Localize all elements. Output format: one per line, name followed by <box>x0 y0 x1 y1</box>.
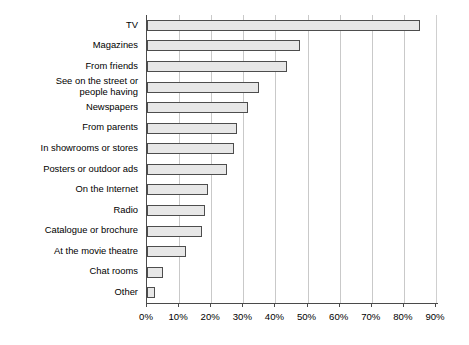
x-tick-label: 30% <box>225 311 259 322</box>
x-tick-label: 0% <box>129 311 163 322</box>
x-tick <box>178 303 179 307</box>
category-label: Radio <box>0 205 138 216</box>
gridline-80pct <box>404 15 405 303</box>
category-label: In showrooms or stores <box>0 143 138 154</box>
bar <box>147 61 287 72</box>
x-tick <box>274 303 275 307</box>
bar <box>147 267 163 278</box>
bar <box>147 226 202 237</box>
x-tick <box>435 303 436 307</box>
category-label: See on the street or people having <box>0 76 138 97</box>
x-tick <box>403 303 404 307</box>
x-tick-label: 20% <box>193 311 227 322</box>
gridline-20pct <box>211 15 212 303</box>
category-label-column: TVMagazinesFrom friendsSee on the street… <box>0 15 142 303</box>
category-label: From friends <box>0 61 138 72</box>
x-tick-label: 70% <box>354 311 388 322</box>
category-label: From parents <box>0 122 138 133</box>
category-label: At the movie theatre <box>0 246 138 257</box>
horizontal-bar-chart: TVMagazinesFrom friendsSee on the street… <box>0 0 469 345</box>
category-label: Newspapers <box>0 102 138 113</box>
bar <box>147 184 208 195</box>
category-label: Magazines <box>0 40 138 51</box>
bar <box>147 82 259 93</box>
category-label: On the Internet <box>0 184 138 195</box>
x-tick <box>307 303 308 307</box>
gridline-90pct <box>436 15 437 303</box>
gridline-70pct <box>372 15 373 303</box>
gridline-60pct <box>340 15 341 303</box>
x-tick-label: 10% <box>161 311 195 322</box>
x-tick <box>210 303 211 307</box>
category-label: Posters or outdoor ads <box>0 164 138 175</box>
bar <box>147 20 420 31</box>
x-tick-label: 90% <box>418 311 452 322</box>
gridline-30pct <box>243 15 244 303</box>
x-tick <box>242 303 243 307</box>
x-tick <box>146 303 147 307</box>
category-label: TV <box>0 20 138 31</box>
x-tick <box>371 303 372 307</box>
x-axis: 0%10%20%30%40%50%60%70%80%90% <box>146 303 438 333</box>
bar <box>147 164 227 175</box>
gridline-10pct <box>179 15 180 303</box>
bar <box>147 123 237 134</box>
bar <box>147 40 300 51</box>
category-label: Chat rooms <box>0 266 138 277</box>
category-label: Catalogue or brochure <box>0 225 138 236</box>
bar <box>147 102 248 113</box>
x-tick-label: 80% <box>386 311 420 322</box>
x-tick-label: 50% <box>290 311 324 322</box>
bar <box>147 143 234 154</box>
gridline-50pct <box>308 15 309 303</box>
bar <box>147 246 186 257</box>
bar <box>147 205 205 216</box>
x-tick-label: 60% <box>322 311 356 322</box>
bar <box>147 287 155 298</box>
x-tick-label: 40% <box>257 311 291 322</box>
x-tick <box>339 303 340 307</box>
category-label: Other <box>0 287 138 298</box>
gridline-40pct <box>275 15 276 303</box>
plot-area <box>146 15 438 304</box>
